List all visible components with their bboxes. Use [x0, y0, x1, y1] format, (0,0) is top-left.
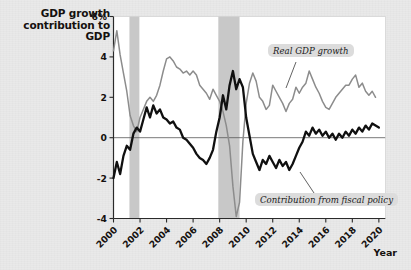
- x-tick-label: 2000: [94, 224, 120, 250]
- x-axis-ticks: [114, 219, 379, 223]
- y-tick-label: -4: [97, 213, 107, 224]
- y-tick-label: 2: [101, 92, 107, 103]
- x-tick-label: 2008: [200, 224, 226, 250]
- x-tick-label: 2012: [253, 224, 279, 250]
- annotation-real-gdp-growth: Real GDP growth: [268, 44, 354, 57]
- x-tick-label: 2010: [226, 224, 252, 250]
- x-axis-title: Year: [373, 247, 397, 258]
- y-axis-tick-labels: 6%420-2-4: [91, 11, 107, 224]
- x-tick-label: 2014: [279, 224, 305, 250]
- x-tick-label: 2018: [332, 224, 358, 250]
- recession-2008: [218, 17, 239, 219]
- y-tick-label: 6%: [91, 11, 107, 22]
- x-tick-label: 2004: [147, 224, 173, 250]
- y-tick-label: 0: [101, 132, 107, 143]
- annotation-contribution-from-fiscal-policy: Contribution from fiscal policy: [255, 193, 398, 206]
- y-tick-label: -2: [97, 173, 107, 184]
- x-tick-label: 2006: [173, 224, 199, 250]
- x-axis-tick-labels: 2000200220042006200820102012201420162018…: [94, 224, 385, 250]
- y-tick-label: 4: [101, 51, 107, 62]
- x-tick-label: 2016: [306, 224, 332, 250]
- x-tick-label: 2002: [120, 224, 146, 250]
- gdp-growth-chart: 6%420-2-4 200020022004200620082010201220…: [0, 0, 411, 270]
